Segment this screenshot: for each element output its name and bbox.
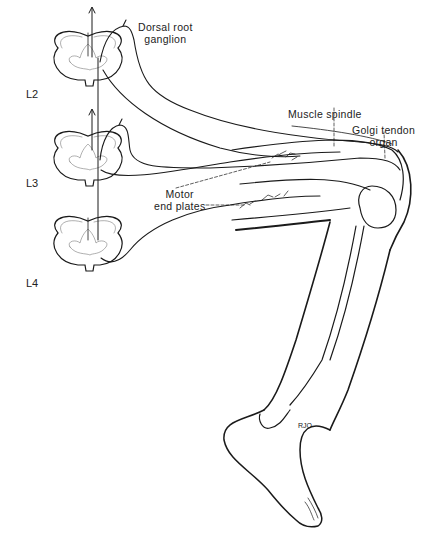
muscle-spindle-label: Muscle spindle bbox=[288, 108, 362, 120]
dorsal-root-ganglion-label: Dorsal root ganglion bbox=[138, 21, 193, 45]
knee bbox=[359, 150, 411, 250]
segment-label-L4: L4 bbox=[26, 277, 38, 289]
spinal-cord-L4 bbox=[54, 216, 122, 271]
foot bbox=[224, 410, 330, 527]
motor-end-plates-label: Motor end plates bbox=[154, 188, 205, 212]
reflex-arc-illustration bbox=[0, 0, 436, 546]
spinal-cord-L2 bbox=[54, 31, 122, 86]
lower-leg bbox=[264, 222, 390, 430]
spinal-cord-L3 bbox=[54, 131, 122, 186]
segment-label-L3: L3 bbox=[26, 177, 38, 189]
ascending-arrows bbox=[89, 7, 98, 240]
artist-signature: RJO bbox=[298, 422, 312, 429]
segment-label-L2: L2 bbox=[26, 88, 38, 100]
golgi-tendon-organ-label: Golgi tendon organ bbox=[352, 124, 415, 148]
efferent-fibers bbox=[101, 70, 340, 262]
